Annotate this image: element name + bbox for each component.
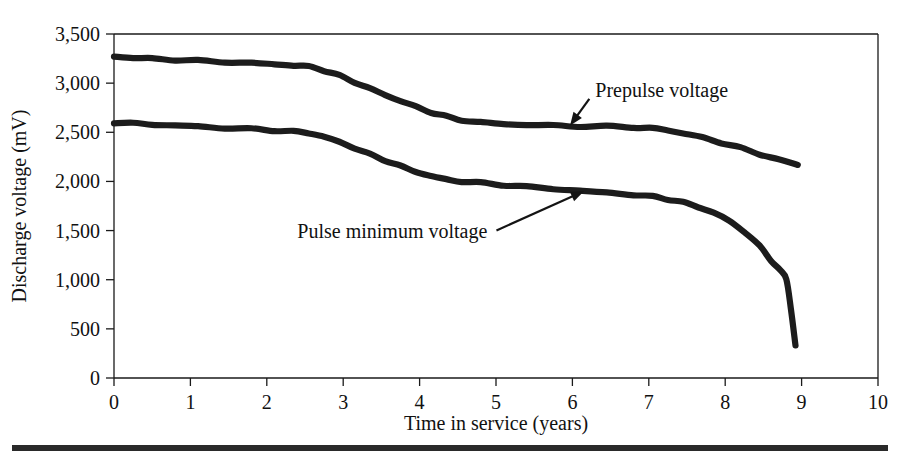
y-axis-tick-labels: 05001,0001,5002,0002,5003,0003,500 bbox=[55, 23, 100, 389]
x-tick-label: 6 bbox=[567, 391, 577, 413]
y-tick-label: 2,500 bbox=[55, 121, 100, 143]
x-axis-tick-labels: 012345678910 bbox=[109, 391, 888, 413]
x-tick-label: 9 bbox=[797, 391, 807, 413]
y-tick-label: 500 bbox=[70, 318, 100, 340]
x-tick-label: 3 bbox=[338, 391, 348, 413]
series-line bbox=[114, 57, 798, 165]
x-tick-label: 8 bbox=[720, 391, 730, 413]
annotation-label: Pulse minimum voltage bbox=[297, 220, 487, 243]
x-tick-label: 10 bbox=[868, 391, 888, 413]
x-tick-label: 1 bbox=[185, 391, 195, 413]
x-axis-title: Time in service (years) bbox=[404, 412, 588, 435]
x-tick-label: 0 bbox=[109, 391, 119, 413]
annotation-arrowhead bbox=[570, 191, 584, 201]
annotation-leader-line bbox=[496, 195, 576, 231]
y-tick-label: 1,500 bbox=[55, 220, 100, 242]
x-tick-label: 4 bbox=[415, 391, 425, 413]
x-tick-label: 2 bbox=[262, 391, 272, 413]
figure-bottom-rule bbox=[12, 445, 888, 451]
y-axis-title: Discharge voltage (mV) bbox=[8, 110, 31, 303]
y-tick-label: 2,000 bbox=[55, 170, 100, 192]
y-tick-label: 1,000 bbox=[55, 269, 100, 291]
annotation-label: Prepulse voltage bbox=[595, 79, 728, 102]
figure-container: 05001,0001,5002,0002,5003,0003,500 01234… bbox=[0, 0, 903, 467]
discharge-voltage-chart: 05001,0001,5002,0002,5003,0003,500 01234… bbox=[0, 0, 903, 467]
y-tick-label: 3,000 bbox=[55, 72, 100, 94]
annotation-arrowhead bbox=[570, 112, 582, 126]
annotation-group: Prepulse voltagePulse minimum voltage bbox=[297, 79, 728, 244]
y-axis-ticks bbox=[106, 34, 114, 378]
y-tick-label: 3,500 bbox=[55, 23, 100, 45]
x-tick-label: 5 bbox=[491, 391, 501, 413]
y-tick-label: 0 bbox=[90, 367, 100, 389]
x-tick-label: 7 bbox=[644, 391, 654, 413]
x-axis-ticks bbox=[114, 378, 878, 386]
